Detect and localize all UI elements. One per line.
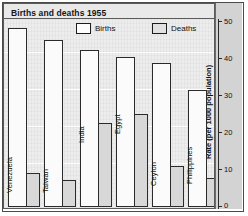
legend-label-births: Births bbox=[95, 24, 115, 33]
y-axis-tick-20 bbox=[218, 132, 222, 133]
y-axis-ticklabel-30: 30 bbox=[224, 92, 232, 100]
legend-label-deaths: Deaths bbox=[171, 24, 196, 33]
y-axis-tick-30 bbox=[218, 95, 222, 96]
gridline-30 bbox=[4, 89, 214, 90]
y-axis-tick-40 bbox=[218, 58, 222, 59]
y-axis-ticklabel-0: 0 bbox=[224, 202, 228, 210]
y-axis-tick-10 bbox=[218, 169, 222, 170]
legend-swatch-deaths-icon bbox=[152, 23, 167, 34]
category-label-india: India bbox=[77, 126, 86, 143]
y-axis-ticklabel-20: 20 bbox=[224, 129, 232, 137]
legend-swatch-births-icon bbox=[76, 23, 91, 34]
y-axis-tick-0 bbox=[218, 206, 222, 207]
category-label-philippines: Philippines bbox=[185, 147, 194, 184]
bar-deaths-taiwan bbox=[61, 180, 76, 207]
y-axis-spine bbox=[218, 19, 219, 209]
y-axis-tick-50 bbox=[218, 21, 222, 22]
y-axis-ticklabel-50: 50 bbox=[224, 18, 232, 26]
y-axis-band bbox=[215, 3, 242, 209]
bar-deaths-ceylon bbox=[169, 166, 184, 207]
gridline-40 bbox=[4, 52, 214, 53]
category-label-taiwan: Taiwan bbox=[41, 169, 50, 193]
category-label-egypt: Egypt bbox=[113, 114, 122, 134]
category-label-ceylon: Ceylon bbox=[149, 162, 158, 186]
page-title: Births and deaths 1955 bbox=[11, 8, 106, 18]
bar-deaths-india bbox=[97, 123, 112, 207]
y-axis-ticklabel-10: 10 bbox=[224, 166, 232, 174]
bar-deaths-egypt bbox=[133, 114, 148, 207]
y-axis-ticklabel-40: 40 bbox=[224, 55, 232, 63]
category-label-venezuela: Venezuela bbox=[5, 157, 14, 193]
chart-figure: Births and deaths 1955 Venezuela Taiwan … bbox=[0, 0, 248, 216]
chart-title-band: Births and deaths 1955 bbox=[3, 3, 215, 19]
bar-deaths-venezuela bbox=[25, 173, 40, 207]
plot-area: Venezuela Taiwan India Egypt Ceylon Phil… bbox=[3, 19, 215, 209]
